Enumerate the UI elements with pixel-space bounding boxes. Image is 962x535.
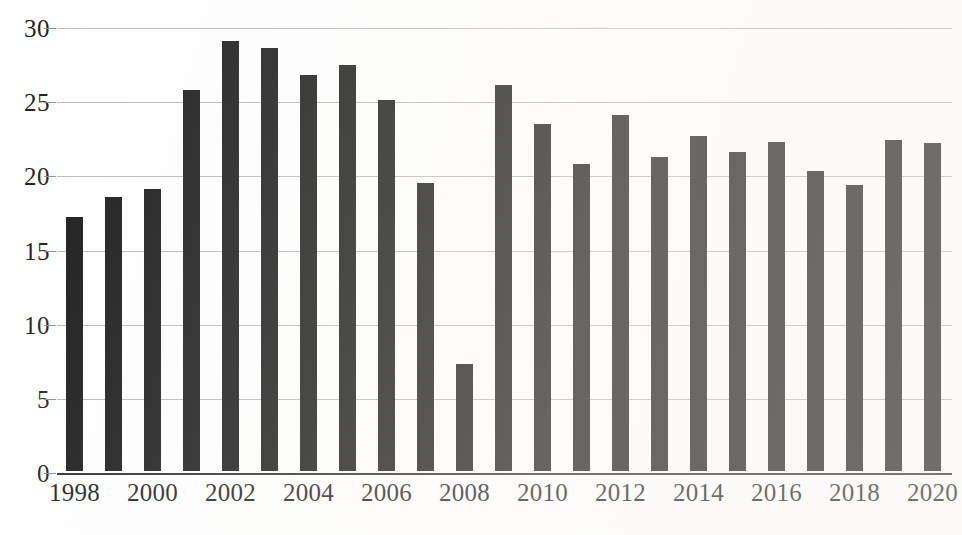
x-tick-label: 2004 — [283, 479, 334, 507]
y-tick-mark — [44, 102, 56, 103]
y-tick-mark — [44, 399, 56, 400]
x-tick-label: 2006 — [361, 479, 412, 507]
bar-2005 — [339, 65, 356, 471]
x-tick-label: 2012 — [595, 479, 646, 507]
y-tick-mark — [44, 325, 56, 326]
x-tick-label: 2014 — [673, 479, 724, 507]
bar-2006 — [378, 100, 395, 471]
bar-2017 — [807, 171, 824, 471]
bar-2016 — [768, 142, 785, 471]
bar-1998 — [66, 217, 83, 471]
bar-2020 — [924, 143, 941, 471]
x-tick-label: 2008 — [439, 479, 490, 507]
y-tick-mark — [44, 473, 56, 474]
bar-2002 — [222, 41, 239, 471]
plot-area — [57, 28, 952, 473]
bar-2009 — [495, 85, 512, 471]
bar-2001 — [183, 90, 200, 471]
bar-2018 — [846, 185, 863, 471]
x-tick-label: 2010 — [517, 479, 568, 507]
y-axis: 051015202530 — [0, 28, 50, 473]
x-tick-label: 2016 — [751, 479, 802, 507]
y-tick-mark — [44, 176, 56, 177]
bar-2007 — [417, 183, 434, 471]
x-tick-label: 2018 — [829, 479, 880, 507]
x-axis: 1998200020022004200620082010201220142016… — [57, 479, 952, 521]
bar-2010 — [534, 124, 551, 471]
bar-1999 — [105, 197, 122, 471]
x-axis-line — [57, 473, 952, 475]
x-tick-label: 2020 — [907, 479, 958, 507]
bar-2015 — [729, 152, 746, 471]
bar-2000 — [144, 189, 161, 471]
bar-2003 — [261, 48, 278, 471]
y-tick-mark — [44, 251, 56, 252]
bar-2011 — [573, 164, 590, 471]
bar-2004 — [300, 75, 317, 471]
bar-2008 — [456, 364, 473, 471]
x-tick-label: 2002 — [205, 479, 256, 507]
y-tick-mark — [44, 28, 56, 29]
bar-2014 — [690, 136, 707, 471]
x-tick-label: 1998 — [49, 479, 100, 507]
bar-chart: 051015202530 199820002002200420062008201… — [0, 0, 962, 535]
bar-2012 — [612, 115, 629, 471]
x-tick-label: 2000 — [127, 479, 178, 507]
bar-2013 — [651, 157, 668, 471]
bars-layer — [57, 28, 952, 473]
bar-2019 — [885, 140, 902, 471]
